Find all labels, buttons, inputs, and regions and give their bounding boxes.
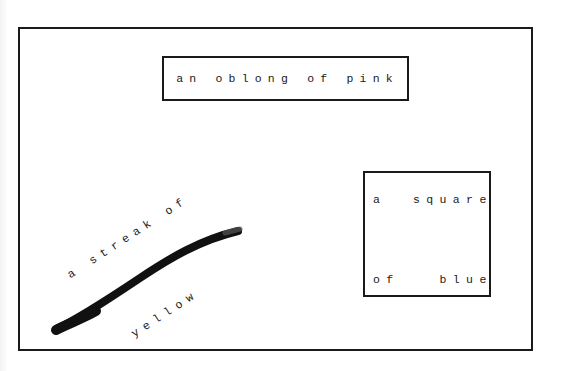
yellow-streak-brushstroke <box>0 0 565 371</box>
